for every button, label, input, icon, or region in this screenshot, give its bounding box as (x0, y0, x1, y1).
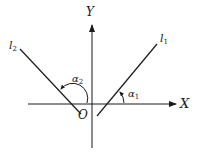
line-l2: l2 (9, 39, 81, 114)
x-axis-label: X (179, 96, 190, 111)
angle-alpha1: α1 (120, 88, 139, 103)
x-axis: X (28, 96, 190, 111)
angle-alpha2-arc (61, 83, 88, 103)
angle-alpha1-arc (120, 92, 124, 103)
y-axis: Y (86, 5, 95, 148)
line-l1-stroke (97, 44, 157, 116)
inclination-angle-diagram: X Y O l2 l1 α2 α1 (0, 0, 198, 166)
line-l1-label: l1 (160, 32, 168, 46)
line-l2-label: l2 (9, 39, 17, 53)
origin-label: O (78, 108, 88, 122)
angle-alpha1-label: α1 (128, 88, 139, 101)
y-axis-label: Y (86, 5, 95, 19)
angle-alpha2: α2 (61, 73, 88, 103)
line-l1: l1 (97, 32, 168, 116)
